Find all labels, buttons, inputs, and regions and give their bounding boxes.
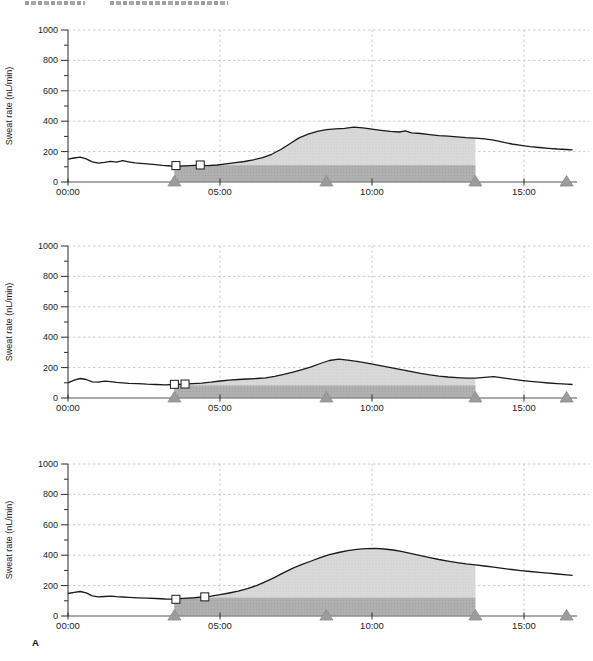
x-tick-label: 10:00 [360, 620, 384, 630]
square-sample-marker [172, 162, 180, 170]
x-tick-label: 00:00 [56, 402, 80, 412]
y-tick-label: 1000 [38, 459, 58, 469]
y-axis-title: Sweat rate (nL/min) [4, 283, 14, 362]
y-tick-label: 200 [43, 147, 58, 157]
y-tick-label: 800 [43, 55, 58, 65]
y-tick-label: 600 [43, 86, 58, 96]
x-tick-label: 05:00 [208, 620, 232, 630]
triangle-event-marker [560, 610, 573, 621]
y-axis-title: Sweat rate (nL/min) [4, 501, 14, 580]
x-tick-label: 00:00 [56, 186, 80, 196]
y-tick-label: 200 [43, 581, 58, 591]
x-tick-label: 15:00 [512, 186, 536, 196]
figure-page: 0200400600800100000:0005:0010:0015:00 Sw… [0, 0, 593, 661]
square-sample-marker [196, 161, 204, 169]
x-tick-label: 05:00 [208, 402, 232, 412]
sweat-rate-chart-1: 0200400600800100000:0005:0010:0015:00 Sw… [0, 18, 593, 196]
running-head-fragment-left [25, 1, 85, 5]
x-tick-label: 10:00 [360, 186, 384, 196]
x-tick-label: 15:00 [512, 402, 536, 412]
y-tick-label: 1000 [38, 241, 58, 251]
square-sample-marker [201, 593, 209, 601]
y-tick-label: 600 [43, 302, 58, 312]
square-sample-marker [172, 595, 180, 603]
y-tick-label: 400 [43, 550, 58, 560]
x-tick-label: 10:00 [360, 402, 384, 412]
y-tick-label: 600 [43, 520, 58, 530]
sweat-rate-chart-3: 0200400600800100000:0005:0010:0015:00 Sw… [0, 452, 593, 630]
running-head-fragment-right [110, 1, 228, 5]
y-tick-label: 400 [43, 116, 58, 126]
triangle-event-marker [560, 392, 573, 403]
square-sample-marker [181, 380, 189, 388]
square-sample-marker [170, 380, 178, 388]
sweat-rate-chart-2: 0200400600800100000:0005:0010:0015:00 Sw… [0, 234, 593, 412]
y-tick-label: 200 [43, 363, 58, 373]
y-tick-label: 400 [43, 332, 58, 342]
y-tick-label: 800 [43, 271, 58, 281]
y-axis-title: Sweat rate (nL/min) [4, 67, 14, 146]
x-tick-label: 05:00 [208, 186, 232, 196]
y-tick-label: 1000 [38, 25, 58, 35]
x-tick-label: 00:00 [56, 620, 80, 630]
panel-label: A [32, 637, 39, 648]
x-tick-label: 15:00 [512, 620, 536, 630]
triangle-event-marker [560, 176, 573, 187]
y-tick-label: 800 [43, 489, 58, 499]
